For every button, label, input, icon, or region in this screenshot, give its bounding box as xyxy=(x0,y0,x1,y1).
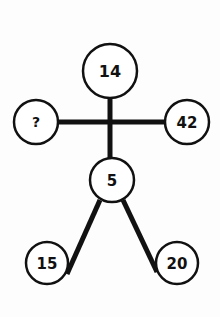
node-left-hand-label: ? xyxy=(32,114,40,130)
node-left-foot: 15 xyxy=(26,242,68,284)
node-left-foot-label: 15 xyxy=(37,255,58,273)
node-left-hand: ? xyxy=(14,100,58,144)
node-right-hand: 42 xyxy=(165,100,209,144)
puzzle-diagram: 14 ? 42 5 15 20 xyxy=(0,0,220,317)
node-waist: 5 xyxy=(90,158,134,202)
node-head-label: 14 xyxy=(99,62,121,81)
node-right-foot-label: 20 xyxy=(167,255,188,273)
node-head: 14 xyxy=(83,44,137,98)
node-waist-label: 5 xyxy=(107,172,117,190)
node-right-hand-label: 42 xyxy=(177,114,198,132)
node-right-foot: 20 xyxy=(156,242,198,284)
